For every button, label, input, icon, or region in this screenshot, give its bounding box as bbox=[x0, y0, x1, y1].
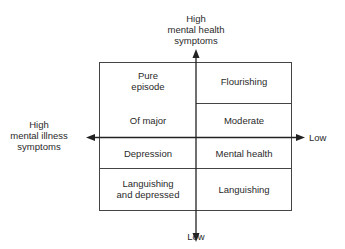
cell-languishing-and-depressed: Languishing and depressed bbox=[100, 172, 196, 206]
left-axis-label-line2: mental illness bbox=[3, 130, 75, 141]
left-axis-label: High mental illness symptoms bbox=[3, 119, 75, 152]
cell-pure-episode-line2: episode bbox=[131, 81, 164, 92]
arrow-right-icon bbox=[296, 134, 305, 141]
cell-languishing: Languishing bbox=[197, 178, 291, 200]
cell-pure-episode: Pure episode bbox=[100, 66, 196, 96]
arrow-left-icon bbox=[86, 134, 95, 141]
left-axis-label-line3: symptoms bbox=[3, 141, 75, 152]
cell-languishing-and-depressed-line1: Languishing bbox=[122, 178, 173, 189]
cell-languishing-and-depressed-line2: and depressed bbox=[117, 189, 180, 200]
top-axis-label: High mental health symptoms bbox=[156, 13, 236, 46]
top-axis-label-line3: symptoms bbox=[156, 35, 236, 46]
cell-of-major: Of major bbox=[100, 110, 196, 130]
right-axis-label: Low bbox=[309, 132, 326, 143]
cell-mental-health: Mental health bbox=[197, 143, 291, 163]
cell-flourishing: Flourishing bbox=[197, 70, 291, 92]
top-axis-label-line1: High bbox=[156, 13, 236, 24]
bottom-axis-label: Low bbox=[176, 231, 216, 242]
top-axis-label-line2: mental health bbox=[156, 24, 236, 35]
left-axis-label-line1: High bbox=[3, 119, 75, 130]
cell-pure-episode-line1: Pure bbox=[138, 70, 158, 81]
cell-depression: Depression bbox=[100, 143, 196, 163]
arrow-up-icon bbox=[193, 49, 200, 58]
cell-moderate: Moderate bbox=[197, 110, 291, 130]
